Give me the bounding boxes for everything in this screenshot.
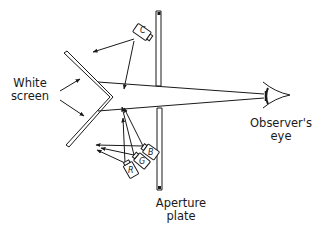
- svg-text:B: B: [148, 148, 154, 157]
- screen-label-arrows: [60, 79, 84, 116]
- light-beam: [98, 82, 264, 111]
- white-screen: [64, 51, 113, 147]
- observer-eye-icon: [263, 82, 290, 108]
- aperture-plate-label: Aperture plate: [147, 197, 215, 223]
- aperture-plate: [156, 11, 162, 190]
- svg-text:R: R: [128, 166, 134, 175]
- white-screen-label: White screen: [4, 77, 56, 103]
- svg-text:C: C: [140, 26, 146, 35]
- aperture-plate-label-line2: plate: [147, 210, 215, 223]
- projector-c: C: [93, 23, 154, 89]
- svg-text:G: G: [139, 157, 145, 166]
- white-screen-label-line2: screen: [4, 90, 56, 103]
- observer-eye-label-line2: eye: [244, 130, 318, 143]
- observer-eye-label: Observer's eye: [244, 117, 318, 143]
